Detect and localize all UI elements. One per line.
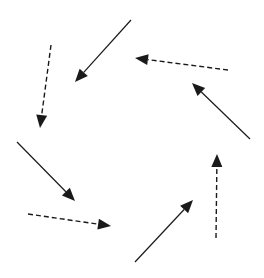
arrowhead-icon xyxy=(97,219,111,230)
dashed-arrow-icon xyxy=(211,154,222,238)
diagram-canvas xyxy=(0,0,264,278)
solid-arrow-icon xyxy=(135,200,193,262)
dashed-arrow-icon xyxy=(28,214,111,230)
solid-arrow-icon xyxy=(192,83,250,139)
arrowhead-icon xyxy=(135,54,149,65)
arrow-shaft xyxy=(201,92,250,139)
dashed-arrow-icon xyxy=(36,45,51,128)
arrowhead-icon xyxy=(36,114,47,128)
arrow-shaft xyxy=(42,45,51,115)
solid-arrow-icon xyxy=(17,142,75,201)
arrow-shaft xyxy=(148,60,228,70)
arrow-layer xyxy=(17,20,250,262)
dashed-arrow-icon xyxy=(135,54,228,70)
arrowhead-icon xyxy=(211,154,222,167)
arrow-shaft xyxy=(216,167,217,238)
solid-arrow-icon xyxy=(75,20,131,82)
arrow-shaft xyxy=(17,142,66,192)
arrow-shaft xyxy=(84,20,131,72)
arrow-shaft xyxy=(28,214,98,224)
arrow-diagram xyxy=(0,0,264,278)
arrow-shaft xyxy=(135,209,184,262)
